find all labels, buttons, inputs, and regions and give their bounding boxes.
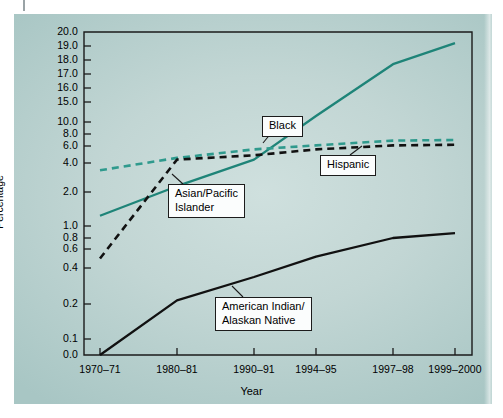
- series-line-3: [100, 233, 455, 355]
- y-tick-label: 20.0: [32, 25, 78, 37]
- callout-asian-pacific-islander: Asian/Pacific Islander: [168, 184, 245, 218]
- y-tick-label: 15.0: [32, 95, 78, 107]
- x-tick-label: 1999–2000: [410, 363, 500, 375]
- y-tick-label: 10.0: [32, 115, 78, 127]
- y-tick-label: 2.0: [32, 185, 78, 197]
- y-tick-label: 19.0: [32, 39, 78, 51]
- y-tick-label: 0.4: [32, 261, 78, 273]
- y-tick-label: 6.0: [32, 139, 78, 151]
- figure-root: Percentage Year Black Hispanic Asian/Pac…: [0, 0, 503, 418]
- y-axis-title: Percentage: [0, 175, 5, 229]
- callout-aian-line1: American Indian/: [222, 300, 305, 314]
- y-tick-label: 8.0: [32, 127, 78, 139]
- callout-aian-line2: Alaskan Native: [222, 314, 305, 328]
- y-tick-label: 18.0: [32, 53, 78, 65]
- y-tick-label: 16.0: [32, 81, 78, 93]
- callout-black: Black: [262, 116, 303, 137]
- y-tick-label: 0.8: [32, 231, 78, 243]
- callout-asian-line1: Asian/Pacific: [175, 187, 238, 201]
- callout-asian-line2: Islander: [175, 201, 238, 215]
- y-tick-label: 0.1: [32, 332, 78, 344]
- y-tick-label: 0.2: [32, 297, 78, 309]
- y-tick-label: 4.0: [32, 156, 78, 168]
- y-tick-label: 17.0: [32, 67, 78, 79]
- callout-american-indian-alaskan-native: American Indian/ Alaskan Native: [215, 297, 312, 331]
- x-axis-title: Year: [0, 385, 503, 397]
- callout-hispanic-label: Hispanic: [327, 158, 369, 170]
- y-tick-label: 0.6: [32, 242, 78, 254]
- callout-black-label: Black: [269, 119, 296, 131]
- y-tick-label: 0.0: [32, 348, 78, 360]
- callout-hispanic: Hispanic: [320, 155, 376, 176]
- y-tick-label: 1.0: [32, 219, 78, 231]
